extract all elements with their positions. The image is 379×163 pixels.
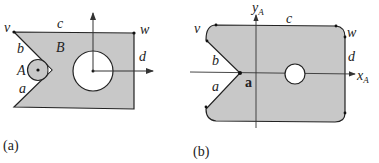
label-a-b: a: [212, 80, 219, 94]
caption-b: (b): [193, 145, 209, 159]
label-y-axis-b: yA: [252, 1, 264, 15]
corner-dot: [205, 106, 208, 109]
label-reference-point: a: [245, 76, 252, 90]
caption-a: (a): [3, 139, 19, 153]
label-c-b: c: [286, 12, 292, 26]
label-c-a: c: [57, 17, 63, 31]
corner-dot: [344, 36, 347, 39]
label-A-robot: A: [17, 64, 26, 78]
label-v-b: v: [194, 22, 200, 36]
label-b-a: b: [17, 42, 24, 56]
label-d-a: d: [139, 50, 146, 64]
vertex-v-dot: [12, 30, 15, 33]
label-b-b: b: [212, 54, 219, 68]
label-w-a: w: [140, 23, 149, 37]
reference-point-dot: [238, 71, 242, 75]
label-d-b: d: [348, 50, 355, 64]
label-w-b: w: [347, 26, 356, 40]
label-a-a: a: [19, 82, 26, 96]
corner-dot: [335, 25, 338, 28]
label-B-obstacle: B: [56, 41, 65, 55]
corner-dot: [206, 40, 209, 43]
label-x-axis-b: xA: [357, 69, 369, 83]
remaining-hole: [285, 64, 305, 84]
corner-dot: [344, 112, 347, 115]
panel-a-diagram: [12, 13, 153, 109]
panel-b-diagram: [190, 15, 355, 128]
corner-dot: [215, 24, 218, 27]
label-v-a: v: [4, 21, 10, 35]
robot-a-center: [36, 68, 39, 71]
vertex-w-dot: [132, 31, 135, 34]
